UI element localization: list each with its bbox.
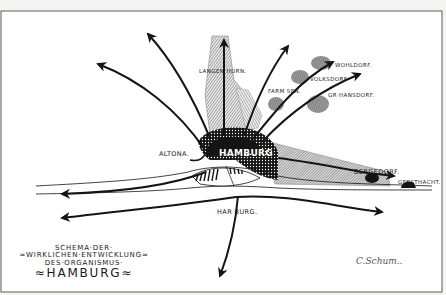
label-wohldorf: WOHLDORF. xyxy=(335,63,372,69)
label-farmsen: FARM SEN. xyxy=(268,89,301,95)
wohldorf-blob xyxy=(311,56,331,70)
title-line-4: ≈HAMBURG≈ xyxy=(4,267,164,280)
label-bergedorf: BERGEDORF. xyxy=(354,169,400,176)
label-harburg: HAR BURG. xyxy=(217,209,257,216)
label-altona: ALTONA. xyxy=(159,151,189,158)
gr-hansdorf-blob xyxy=(307,95,329,113)
volksdorf-blob xyxy=(291,70,309,84)
label-geesthacht: GEESTHACHT. xyxy=(398,180,441,186)
label-hamburg-center: HAMBURG xyxy=(219,148,273,158)
label-gr-hansdorf: GR·HANSDORF. xyxy=(328,93,375,99)
artist-signature: C.Schum.. xyxy=(356,256,402,266)
diagram-title: SCHEMA·DER· ≈WIRKLICHEN·ENTWICKLUNG≈ DES… xyxy=(4,245,164,280)
label-langenhorn: LANGEN HORN. xyxy=(199,69,247,75)
label-volksdorf: VOLKSDORF xyxy=(310,77,347,83)
